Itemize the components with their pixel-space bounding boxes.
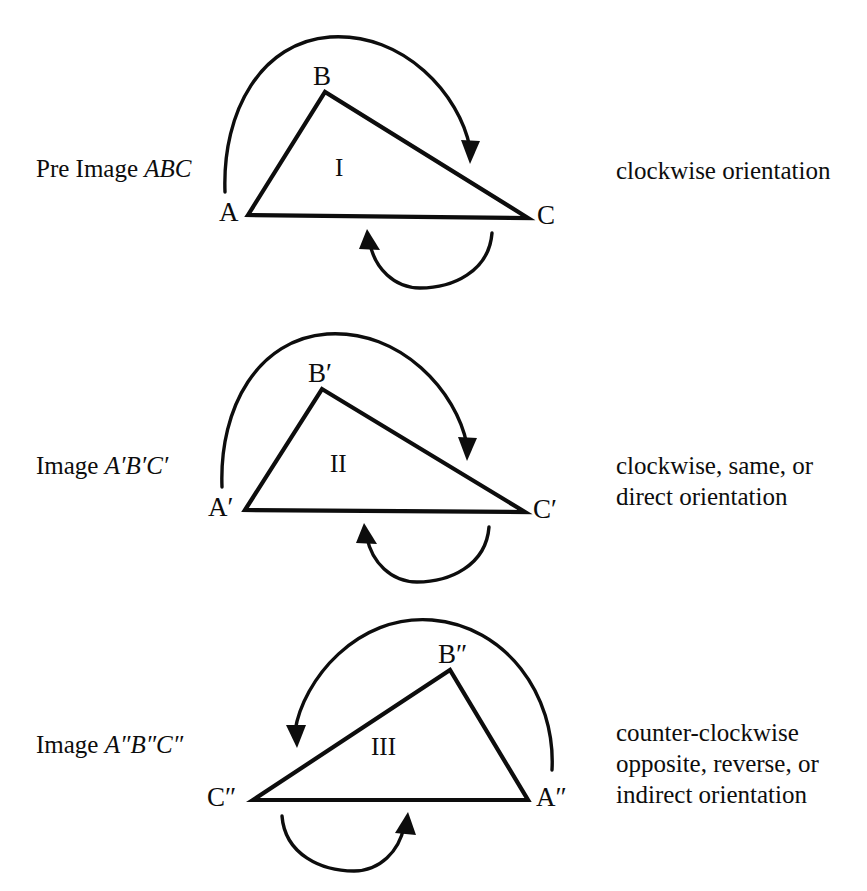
region-label-iii: III bbox=[371, 734, 396, 759]
bottom-arrow-head-icon bbox=[356, 523, 377, 544]
vertex-label-b: B bbox=[313, 63, 331, 90]
panel-pre-image: Pre Image ABC A B C I clockwise orientat… bbox=[0, 0, 867, 300]
panel-1-orientation-text: clockwise orientation bbox=[616, 155, 831, 186]
bottom-arrow-head-icon bbox=[359, 229, 380, 250]
vertex-label-c-prime: C′ bbox=[533, 496, 557, 523]
panel-2-caption: Image A′B′C′ bbox=[36, 452, 168, 480]
top-arrow-head-icon bbox=[461, 140, 480, 164]
top-arrow-head-icon bbox=[286, 725, 306, 748]
panel-image-prime: Image A′B′C′ A′ B′ C′ II clockwise, same… bbox=[0, 296, 867, 594]
panel-3-orientation-text: counter-clockwise opposite, reverse, or … bbox=[616, 717, 819, 810]
panel-3-caption-italic: A″B″C″ bbox=[105, 731, 183, 758]
panel-2-caption-prefix: Image bbox=[36, 452, 105, 479]
bottom-rotation-arc bbox=[282, 816, 404, 871]
panel-1-caption-italic: ABC bbox=[144, 155, 191, 182]
bottom-rotation-arc bbox=[370, 233, 492, 288]
panel-2-caption-italic: A′B′C′ bbox=[105, 452, 169, 479]
panel-3-caption: Image A″B″C″ bbox=[36, 731, 183, 759]
panel-1-caption-prefix: Pre Image bbox=[36, 155, 144, 182]
region-label-i: I bbox=[335, 155, 343, 180]
vertex-label-c: C bbox=[537, 202, 555, 229]
panel-2-orientation-text: clockwise, same, or direct orientation bbox=[616, 450, 813, 512]
panel-1-graphics bbox=[0, 0, 867, 300]
panel-2-graphics bbox=[0, 296, 867, 594]
triangle-abc bbox=[248, 92, 528, 218]
top-rotation-arc bbox=[225, 37, 470, 192]
vertex-label-a-double-prime: A″ bbox=[536, 784, 567, 811]
bottom-arrow-head-icon bbox=[395, 812, 416, 835]
top-arrow-head-icon bbox=[458, 437, 477, 461]
panel-1-caption: Pre Image ABC bbox=[36, 155, 192, 183]
panel-3-caption-prefix: Image bbox=[36, 731, 105, 758]
triangle-a-prime-b-prime-c-prime bbox=[245, 389, 525, 512]
region-label-ii: II bbox=[330, 451, 347, 476]
vertex-label-a-prime: A′ bbox=[208, 494, 233, 521]
vertex-label-b-double-prime: B″ bbox=[438, 641, 467, 668]
diagram-canvas: Pre Image ABC A B C I clockwise orientat… bbox=[0, 0, 867, 891]
vertex-label-c-double-prime: C″ bbox=[207, 784, 236, 811]
panel-image-double-prime: Image A″B″C″ C″ B″ A″ III counter-clockw… bbox=[0, 594, 867, 891]
vertex-label-a: A bbox=[219, 199, 239, 226]
bottom-rotation-arc bbox=[367, 527, 489, 582]
vertex-label-b-prime: B′ bbox=[308, 360, 332, 387]
